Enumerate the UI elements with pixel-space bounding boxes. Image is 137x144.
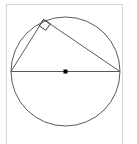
triangle-right-leg (44, 20, 121, 72)
triangle-left-leg (11, 20, 44, 72)
circle-center-point (64, 70, 68, 74)
figure-group (11, 17, 120, 126)
geometry-canvas (0, 0, 137, 144)
geometry-figure (0, 0, 137, 144)
